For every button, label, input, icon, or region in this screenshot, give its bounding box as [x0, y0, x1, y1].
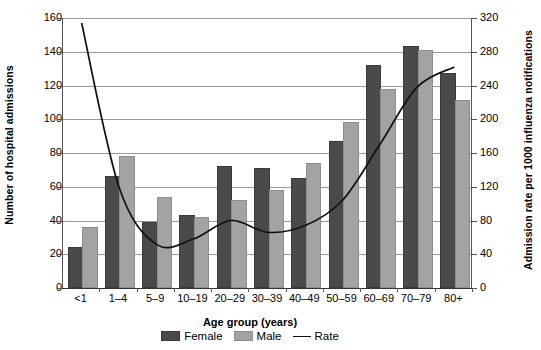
legend-label: Male: [257, 330, 282, 342]
y-axis-right-tick-label: 320: [480, 12, 514, 23]
x-axis-label-1: 1–4: [99, 292, 136, 304]
x-axis-label-5: 30–39: [248, 292, 285, 304]
y-axis-right-tick-label: 160: [480, 147, 514, 158]
chart-legend: FemaleMaleRate: [0, 330, 500, 342]
legend-swatch-male-icon: [234, 331, 253, 341]
x-axis-label-9: 70–79: [397, 292, 434, 304]
x-axis-label-7: 50–59: [323, 292, 360, 304]
legend-item-male[interactable]: Male: [234, 330, 282, 342]
y-axis-title-right: Admission rate per 1000 influenza notifi…: [515, 0, 541, 300]
legend-label: Rate: [315, 330, 339, 342]
y-axis-right-tick-label: 0: [480, 282, 514, 293]
rate-line-layer: [63, 18, 473, 288]
y-axis-title-left: Number of hospital admissions: [0, 0, 20, 290]
y-axis-right-tick-label: 80: [480, 215, 514, 226]
legend-swatch-female-icon: [161, 331, 180, 341]
rate-line: [82, 23, 455, 248]
x-axis-label-10: 80+: [435, 292, 472, 304]
x-axis-label-6: 40–49: [286, 292, 323, 304]
plot-area: [62, 18, 472, 288]
y-axis-right-tick-label: 200: [480, 113, 514, 124]
legend-swatch-rate-icon: [293, 336, 311, 337]
x-axis-label-4: 20–29: [211, 292, 248, 304]
y-axis-right-tick-label: 280: [480, 46, 514, 57]
legend-label: Female: [184, 330, 222, 342]
legend-item-female[interactable]: Female: [161, 330, 222, 342]
x-axis-label-0: <1: [62, 292, 99, 304]
legend-item-rate[interactable]: Rate: [293, 330, 339, 342]
x-axis-label-8: 60–69: [360, 292, 397, 304]
chart-container: Number of hospital admissions Admission …: [0, 0, 541, 350]
y-axis-right-tick-label: 120: [480, 181, 514, 192]
y-axis-title-right-text: Admission rate per 1000 influenza notifi…: [522, 30, 534, 270]
y-axis-right-tick-label: 40: [480, 248, 514, 259]
y-axis-title-left-text: Number of hospital admissions: [3, 65, 15, 224]
x-axis-label-3: 10–19: [174, 292, 211, 304]
y-axis-right-tick-label: 240: [480, 80, 514, 91]
x-axis-line: [62, 288, 472, 289]
x-axis-tick-mark: [472, 288, 473, 292]
x-axis-title: Age group (years): [0, 316, 500, 328]
x-axis-label-2: 5–9: [137, 292, 174, 304]
